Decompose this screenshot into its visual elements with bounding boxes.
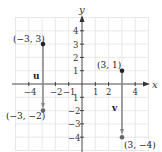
- y-tick-label: 1: [73, 66, 78, 76]
- y-tick-label: 4: [73, 26, 78, 36]
- x-tick-label: 2: [106, 87, 111, 97]
- point-label: (−3, 3): [13, 34, 45, 44]
- y-tick-label: 1: [73, 93, 78, 103]
- y-axis: [80, 15, 85, 152]
- y-tick-label: −4: [68, 133, 81, 143]
- vector-u-label: u: [33, 71, 40, 81]
- y-tick-label: −2: [68, 106, 81, 116]
- x-tick-label: 4: [133, 87, 138, 97]
- x-axis-label: x: [152, 79, 158, 90]
- vector-u: [41, 44, 45, 109]
- x-tick-label: −4: [24, 87, 37, 97]
- vector-v: [120, 71, 124, 135]
- vector-v-label: v: [111, 103, 118, 113]
- coordinate-plane: y x −4 −2 −1 1 2 4 4 3 2 1 1 −2 −3 −4 u …: [0, 0, 162, 152]
- y-tick-label: 2: [73, 53, 78, 63]
- point-label: (3, 1): [97, 60, 121, 70]
- x-tick-label: 1: [93, 87, 98, 97]
- point-label: (−3, −2): [6, 111, 45, 121]
- y-axis-label: y: [78, 4, 85, 15]
- y-tick-label: −3: [68, 119, 81, 129]
- point-label: (3, −4): [124, 140, 156, 150]
- x-tick-label: −2: [50, 87, 63, 97]
- x-axis: [12, 82, 150, 87]
- point-marker: [120, 135, 125, 140]
- y-tick-label: 3: [73, 40, 78, 50]
- x-tick-labels: −4 −2 −1 1 2 4: [24, 87, 138, 97]
